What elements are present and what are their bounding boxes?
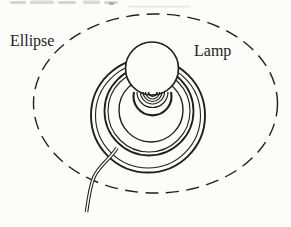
lamp-ellipse-diagram: Ellipse Lamp [0,0,291,227]
print-smudge [30,1,54,5]
print-dot [109,2,114,5]
print-smudge-faint [128,6,190,8]
print-smudge [10,1,26,4]
lamp-ellipse-figure: Ellipse Lamp [0,0,291,227]
print-smudge [83,1,100,5]
lamp-label: Lamp [194,42,231,60]
lamp-bulb [126,42,179,95]
ellipse-label: Ellipse [10,32,54,50]
print-smudge [58,1,76,4]
